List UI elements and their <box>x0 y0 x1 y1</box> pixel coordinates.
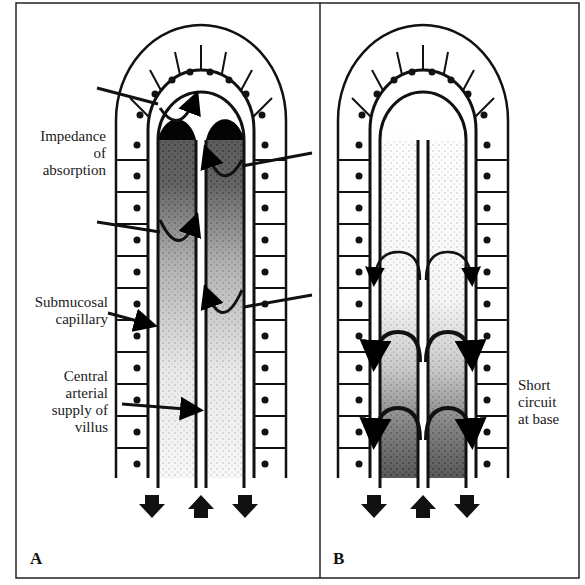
label-line: arterial <box>10 385 108 402</box>
label-submucosal-capillary: Submucosal capillary <box>10 294 108 328</box>
label-line: circuit <box>518 394 582 411</box>
outflow-arrow-right <box>232 495 258 518</box>
panel-b-villus <box>338 25 508 518</box>
label-line: Central <box>10 368 108 385</box>
label-line: absorption <box>20 162 106 179</box>
outflow-arrow-left-b <box>361 495 387 518</box>
label-line: villus <box>10 419 108 436</box>
panel-letter-b: B <box>333 549 344 569</box>
panel-letter-a: A <box>30 549 42 569</box>
label-line: Impedance <box>20 128 106 145</box>
outflow-arrow-right-b <box>454 495 480 518</box>
inflow-arrow-center-b <box>410 495 436 518</box>
label-central-arterial-supply: Central arterial supply of villus <box>10 368 108 436</box>
inflow-arrow-center <box>188 495 214 518</box>
label-line: of <box>20 145 106 162</box>
label-line: Short <box>518 377 582 394</box>
label-impedance-of-absorption: Impedance of absorption <box>20 128 106 179</box>
label-line: Submucosal <box>10 294 108 311</box>
label-line: at base <box>518 411 582 428</box>
outflow-arrow-left <box>139 495 165 518</box>
villus-countercurrent-diagram <box>0 0 585 585</box>
label-line: capillary <box>10 311 108 328</box>
label-line: supply of <box>10 402 108 419</box>
panel-a-villus <box>97 25 312 518</box>
label-short-circuit-at-base: Short circuit at base <box>518 377 582 428</box>
